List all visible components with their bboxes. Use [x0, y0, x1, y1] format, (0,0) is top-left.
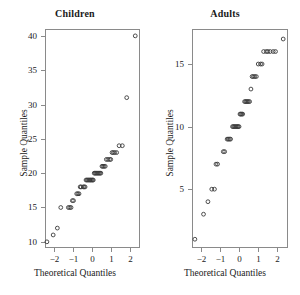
panel-adults: Adults Theoretical Quantiles Sample Quan…: [150, 0, 300, 295]
x-axis-label-adults: Theoretical Quantiles: [150, 268, 300, 278]
x-tick-label: 0: [83, 254, 103, 264]
y-tick-label: 10: [158, 122, 184, 132]
x-tick-label: 1: [249, 254, 269, 264]
data-point: [133, 34, 137, 38]
x-tick-label: −1: [211, 254, 231, 264]
data-point: [206, 200, 210, 204]
y-tick-label: 10: [11, 237, 37, 247]
y-tick-label: 40: [11, 31, 37, 41]
y-tick-label: 20: [11, 168, 37, 178]
x-axis-label-children: Theoretical Quantiles: [0, 268, 150, 278]
y-tick-label: 25: [11, 134, 37, 144]
x-tick-label: −2: [45, 254, 65, 264]
x-tick-label: 1: [102, 254, 122, 264]
data-point: [51, 233, 55, 237]
data-point: [125, 96, 129, 100]
y-tick-label: 5: [158, 184, 184, 194]
y-tick-label: 15: [11, 202, 37, 212]
data-point: [281, 37, 285, 41]
data-point: [55, 226, 59, 230]
qq-plot-figure: Children Theoretical Quantiles Sample Qu…: [0, 0, 300, 295]
panel-children: Children Theoretical Quantiles Sample Qu…: [0, 0, 150, 295]
x-tick-label: −1: [64, 254, 84, 264]
x-tick-label: −2: [192, 254, 212, 264]
y-tick-label: 35: [11, 65, 37, 75]
x-tick-label: 0: [230, 254, 250, 264]
y-tick-label: 30: [11, 100, 37, 110]
data-point: [45, 240, 49, 244]
y-tick-label: 15: [158, 59, 184, 69]
data-point: [249, 87, 253, 91]
x-tick-label: 2: [121, 254, 141, 264]
data-point: [59, 206, 63, 210]
data-point: [202, 212, 206, 216]
x-tick-label: 2: [268, 254, 288, 264]
data-point: [213, 187, 217, 191]
data-point: [193, 237, 197, 241]
